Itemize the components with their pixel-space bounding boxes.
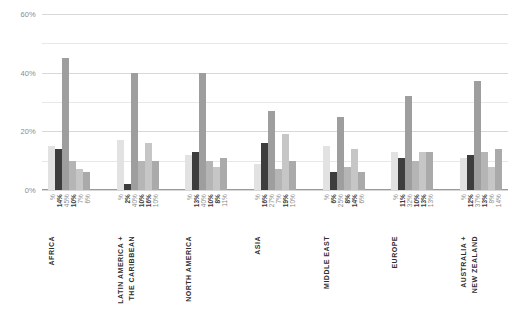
category-axis-label: NORTH AMERICA: [185, 236, 192, 302]
bar-label-column: 19%: [282, 192, 289, 313]
bar-label-column: 14%: [351, 192, 358, 313]
category-axis-label: EUROPE: [391, 236, 398, 269]
bar-group-labels: %EUROPE11%32%10%13%13%: [391, 192, 433, 313]
bar[interactable]: [282, 134, 289, 190]
bar-label-column: 10%: [412, 192, 419, 313]
bar[interactable]: [323, 146, 330, 190]
bar-group-labels: %MIDDLE EAST6%25%8%14%6%: [323, 192, 365, 313]
bar-label-column: 6%: [83, 192, 90, 313]
bar[interactable]: [185, 155, 192, 190]
bar[interactable]: [405, 96, 412, 190]
bar[interactable]: [138, 161, 145, 190]
bar-label-column: 6%: [330, 192, 337, 313]
bar[interactable]: [76, 169, 83, 190]
bar-group-labels: %ASIA16%27%7%19%10%: [254, 192, 296, 313]
bar-label-column: 6%: [358, 192, 365, 313]
category-axis-label: ASIA: [254, 236, 261, 255]
bar[interactable]: [48, 146, 55, 190]
bar-label-column: 25%: [337, 192, 344, 313]
bar-label-column: 37%: [474, 192, 481, 313]
bar-group-labels: %AUSTRALIA +NEW ZEALAND12%37%13%8%14%: [460, 192, 502, 313]
bar[interactable]: [412, 161, 419, 190]
bar[interactable]: [124, 184, 131, 190]
bar[interactable]: [344, 167, 351, 190]
gridline-major: [42, 190, 508, 191]
bar-label-column: 13%: [481, 192, 488, 313]
bar-value-label: 10%: [412, 194, 419, 207]
bar[interactable]: [268, 111, 275, 190]
bar-label-column: 16%: [145, 192, 152, 313]
bar-group: [323, 14, 365, 190]
bar[interactable]: [83, 172, 90, 190]
bar[interactable]: [55, 149, 62, 190]
y-axis-tick-label: 40%: [0, 68, 36, 77]
bar-value-label: 10%: [206, 194, 213, 207]
bar[interactable]: [460, 158, 467, 190]
bar[interactable]: [62, 58, 69, 190]
bar[interactable]: [467, 155, 474, 190]
bar[interactable]: [261, 143, 268, 190]
bar[interactable]: [495, 149, 502, 190]
bar-label-column: 13%: [419, 192, 426, 313]
bars-layer: [42, 14, 508, 190]
bar[interactable]: [337, 117, 344, 190]
bar-value-label: %: [185, 194, 192, 200]
bar[interactable]: [391, 152, 398, 190]
labels-layer: %AFRICA14%45%10%7%6%%LATIN AMERICA +THE …: [42, 192, 508, 313]
bar-group: [48, 14, 90, 190]
bar-chart: %AFRICA14%45%10%7%6%%LATIN AMERICA +THE …: [0, 0, 520, 313]
bar[interactable]: [145, 143, 152, 190]
bar-label-column: 10%: [206, 192, 213, 313]
bar-group: [391, 14, 433, 190]
bar[interactable]: [488, 167, 495, 190]
y-axis-tick-label: 20%: [0, 127, 36, 136]
bar-label-column: %LATIN AMERICA +THE CARIBBEAN: [117, 192, 124, 313]
bar[interactable]: [351, 149, 358, 190]
bar[interactable]: [481, 152, 488, 190]
bar[interactable]: [199, 73, 206, 190]
bar[interactable]: [213, 167, 220, 190]
bar[interactable]: [419, 152, 426, 190]
bar[interactable]: [358, 172, 365, 190]
bar[interactable]: [398, 158, 405, 190]
bar-label-column: 27%: [268, 192, 275, 313]
bar-label-column: 14%: [495, 192, 502, 313]
bar[interactable]: [192, 152, 199, 190]
bar[interactable]: [289, 161, 296, 190]
bar-label-column: 8%: [488, 192, 495, 313]
bar[interactable]: [206, 161, 213, 190]
bar-group-labels: %LATIN AMERICA +THE CARIBBEAN2%40%10%16%…: [117, 192, 159, 313]
bar-label-column: %EUROPE: [391, 192, 398, 313]
bar-label-column: 7%: [275, 192, 282, 313]
bar[interactable]: [69, 161, 76, 190]
category-axis-label: AFRICA: [48, 236, 55, 265]
bar[interactable]: [254, 164, 261, 190]
bar-group-labels: %NORTH AMERICA13%40%10%8%11%: [185, 192, 227, 313]
bar-label-column: %NORTH AMERICA: [185, 192, 192, 313]
bar-value-label: 32%: [405, 194, 412, 207]
bar-label-column: 13%: [192, 192, 199, 313]
bar-value-label: 45%: [62, 194, 69, 207]
bar-label-column: %MIDDLE EAST: [323, 192, 330, 313]
bar-label-column: 12%: [467, 192, 474, 313]
bar[interactable]: [152, 161, 159, 190]
bar[interactable]: [330, 172, 337, 190]
category-axis-label: AUSTRALIA +: [460, 236, 467, 288]
bar[interactable]: [220, 158, 227, 190]
bar-label-column: 10%: [289, 192, 296, 313]
bar-value-label: 14%: [495, 194, 502, 207]
bar-group: [254, 14, 296, 190]
category-axis-label: MIDDLE EAST: [323, 236, 330, 289]
bar-group: [185, 14, 227, 190]
bar-group-labels: %AFRICA14%45%10%7%6%: [48, 192, 90, 313]
bar-value-label: 13%: [426, 194, 433, 207]
bar-group: [460, 14, 502, 190]
bar-label-column: 8%: [213, 192, 220, 313]
bar[interactable]: [474, 81, 481, 190]
bar[interactable]: [117, 140, 124, 190]
bar[interactable]: [275, 169, 282, 190]
bar[interactable]: [131, 73, 138, 190]
bar-value-label: 6%: [83, 194, 90, 204]
bar-label-column: 10%: [152, 192, 159, 313]
bar[interactable]: [426, 152, 433, 190]
